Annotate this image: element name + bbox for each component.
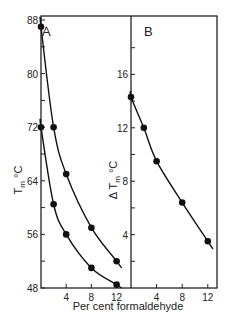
y-tick-label: 72 [27,122,39,133]
series-line [40,17,122,268]
x-axis-label: Per cent formaldehyde [73,300,184,312]
y-tick-label: 88 [27,15,39,26]
data-point [179,199,186,206]
y-tick-label: 48 [27,283,39,294]
data-point [113,258,120,265]
formaldehyde-chart: 4856647280884812 4812164812 A B Per cent… [0,0,226,326]
svg-text:Δ Tm°C: Δ Tm°C [107,161,122,200]
y-tick-label: 12 [117,123,129,134]
y-tick-label: 64 [27,176,39,187]
data-point [128,94,135,101]
series-line [130,91,213,249]
data-point [63,171,70,178]
data-point [38,124,45,131]
data-point [88,265,95,272]
y-axis-label-b: Δ Tm°C [107,161,122,200]
y-tick-label: 4 [122,230,128,241]
data-point [141,125,148,132]
y-tick-label: 8 [122,176,128,187]
data-point [113,281,120,288]
chart-frame [41,16,217,288]
data-point [50,124,57,131]
y-tick-label: 80 [27,69,39,80]
data-point [153,158,160,165]
panel-a-label: A [42,24,51,39]
data-point [88,224,95,231]
y-tick-label: 56 [27,229,39,240]
data-point [50,201,57,208]
data-point [205,238,212,245]
data-point [63,231,70,238]
y-axis-label-a: Tm°C [12,166,27,195]
x-tick-label: 12 [202,292,214,303]
panel-b-label: B [144,24,153,39]
svg-text:Tm°C: Tm°C [12,166,27,195]
y-tick-label: 16 [117,69,129,80]
x-tick-label: 4 [63,292,69,303]
